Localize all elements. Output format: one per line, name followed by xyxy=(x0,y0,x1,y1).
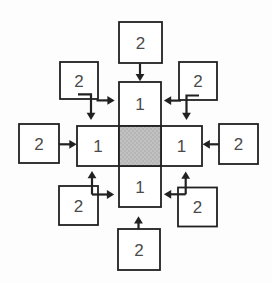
outer-box-left-label: 2 xyxy=(34,135,43,154)
outer-box-bottom-right-label: 2 xyxy=(193,198,202,217)
outer-box-bottom-left-label: 2 xyxy=(74,197,83,216)
outer-box-right-label: 2 xyxy=(234,135,243,154)
center-shaded-cell xyxy=(119,126,161,166)
inner-cell-top-label: 1 xyxy=(135,95,144,114)
inner-cell-right-label: 1 xyxy=(177,137,186,156)
outer-box-top-label: 2 xyxy=(136,34,145,53)
figure-canvas: 1 1 1 1 2 2 2 2 2 2 2 2 xyxy=(0,0,272,283)
outer-box-top-left-label: 2 xyxy=(74,72,83,91)
inner-cell-left-label: 1 xyxy=(93,137,102,156)
outer-box-top-right-label: 2 xyxy=(193,72,202,91)
neighborhood-diagram: 1 1 1 1 2 2 2 2 2 2 2 2 xyxy=(0,0,272,283)
outer-box-bottom-label: 2 xyxy=(134,241,143,260)
inner-cell-bottom-label: 1 xyxy=(135,178,144,197)
